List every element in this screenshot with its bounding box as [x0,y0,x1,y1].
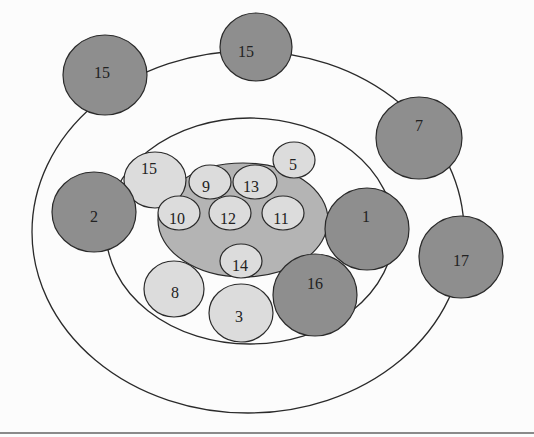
light-node-12: 12 [209,196,251,230]
dark-node-15: 15 [63,35,147,115]
node-label: 3 [235,308,243,325]
light-node-13: 13 [233,165,277,199]
dark-node-shape [325,188,409,270]
dark-node-15: 15 [220,13,292,81]
dark-node-shape [273,254,357,336]
dark-node-shape [376,97,462,179]
node-label: 17 [453,252,469,269]
light-node-3: 3 [209,284,273,342]
dark-node-7: 7 [376,97,462,179]
light-node-11: 11 [262,196,304,230]
bottom-rule [0,432,534,434]
node-label: 15 [141,160,157,177]
node-label: 9 [202,178,210,195]
diagram-canvas: 1559131012111483 15157211617 [0,0,534,437]
light-node-8: 8 [144,261,204,317]
light-node-14: 14 [220,244,262,278]
node-label: 5 [289,156,297,173]
node-label: 1 [362,208,370,225]
dark-node-2: 2 [52,172,136,252]
node-label: 16 [307,275,323,292]
light-node-5: 5 [273,142,315,178]
node-label: 13 [243,178,259,195]
node-label: 2 [90,208,98,225]
light-node-9: 9 [189,165,231,199]
node-label: 14 [232,257,248,274]
node-label: 8 [171,284,179,301]
light-node-shape [189,165,231,199]
node-label: 7 [415,117,423,134]
nested-ellipse-diagram: 1559131012111483 15157211617 [0,0,534,437]
dark-node-shape [220,13,292,81]
dark-node-17: 17 [419,216,503,298]
node-label: 15 [238,43,254,60]
node-label: 11 [273,210,288,227]
dark-node-16: 16 [273,254,357,336]
node-label: 15 [94,64,110,81]
light-node-10: 10 [158,196,200,230]
node-label: 10 [169,210,185,227]
dark-node-1: 1 [325,188,409,270]
node-label: 12 [220,210,236,227]
